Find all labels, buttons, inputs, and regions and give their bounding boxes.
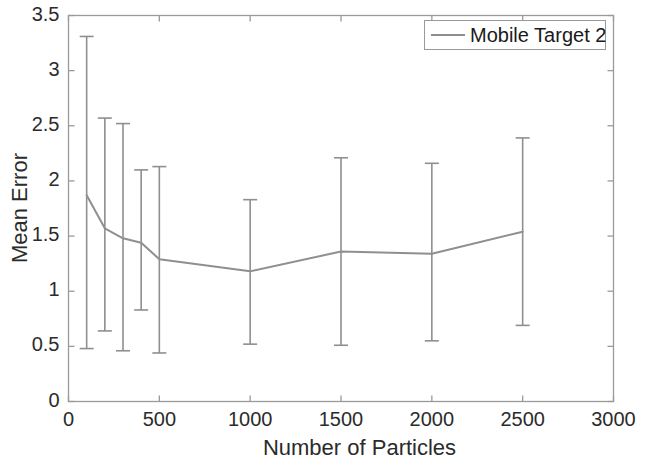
legend-label-mobile-target-2: Mobile Target 2 <box>470 24 606 47</box>
chart-legend: Mobile Target 2 <box>424 20 606 50</box>
legend-line-swatch-mobile-target-2 <box>431 34 465 36</box>
data-line-mobile-target-2 <box>87 195 523 271</box>
chart-figure: Mean Error Number of Particles 00.511.52… <box>0 0 645 457</box>
plot-area <box>0 0 645 457</box>
